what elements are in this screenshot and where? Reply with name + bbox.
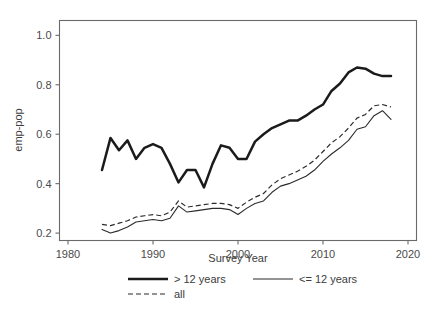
legend-label: <= 12 years [299, 273, 358, 285]
y-tick-label: 0.6 [36, 128, 51, 140]
x-axis-title: Survey Year [208, 252, 268, 264]
plot-frame [60, 21, 417, 241]
chart-figure: 0.20.40.60.81.0 19801990200020102020 Sur… [0, 0, 442, 314]
chart-legend: > 12 years<= 12 yearsall [128, 273, 358, 300]
legend-label: > 12 years [174, 273, 226, 285]
y-tick-label: 0.8 [36, 79, 51, 91]
y-tick-label: 0.4 [36, 178, 51, 190]
series-line--12-years [102, 67, 391, 187]
y-tick-label: 0.2 [36, 227, 51, 239]
y-tick-label: 1.0 [36, 29, 51, 41]
x-tick-label: 1980 [56, 248, 80, 260]
x-tick-label: 1990 [141, 248, 165, 260]
line-chart: 0.20.40.60.81.0 19801990200020102020 Sur… [0, 0, 442, 314]
data-series-group [102, 67, 391, 233]
y-axis-title: emp-pop [12, 108, 24, 151]
series-line-all [102, 105, 391, 226]
y-axis-ticks: 0.20.40.60.81.0 [36, 29, 59, 239]
x-tick-label: 2020 [396, 248, 420, 260]
x-tick-label: 2010 [311, 248, 335, 260]
legend-label: all [174, 288, 185, 300]
